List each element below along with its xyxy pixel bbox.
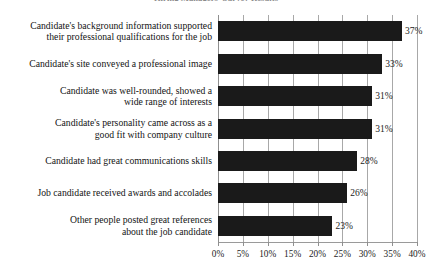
bar-value-label: 31% [372,124,392,134]
chart-title: Hiring Managers' Survey Results [0,0,432,1]
bar[interactable] [218,183,347,203]
plot-area: 37%33%31%31%28%26%23% [218,15,417,242]
category-label: Job candidate received awards and accola… [2,187,212,199]
bar-chart: Hiring Managers' Survey Results 37%33%31… [0,0,432,270]
bar[interactable] [218,119,372,139]
bar[interactable] [218,86,372,106]
x-axis-tick [268,242,269,246]
x-axis-tick [417,242,418,246]
x-axis-tick-label: 40% [397,249,432,259]
category-label: Candidate had great communications skill… [2,155,212,167]
bar-row: 33% [218,54,417,74]
bar-row: 23% [218,216,417,236]
bar-value-label: 37% [402,26,422,36]
bar[interactable] [218,151,357,171]
category-label: Candidate was well-rounded, showed a wid… [2,85,212,108]
bar[interactable] [218,21,402,41]
category-label: Candidate's site conveyed a professional… [2,58,212,70]
bar-value-label: 26% [347,188,367,198]
x-axis-tick [392,242,393,246]
bar-row: 37% [218,21,417,41]
x-axis-tick [367,242,368,246]
x-axis-tick [342,242,343,246]
bar-value-label: 28% [357,156,377,166]
bar-value-label: 31% [372,91,392,101]
bar-value-label: 23% [332,221,352,231]
bar-row: 28% [218,151,417,171]
x-axis-tick [293,242,294,246]
bar-row: 31% [218,119,417,139]
x-axis-tick [243,242,244,246]
x-axis-tick [218,242,219,246]
bar-value-label: 33% [382,59,402,69]
gridline [417,15,418,242]
category-label: Candidate's personality came across as a… [2,117,212,140]
bar-row: 31% [218,86,417,106]
bar[interactable] [218,54,382,74]
x-axis-tick [318,242,319,246]
bar[interactable] [218,216,332,236]
bar-row: 26% [218,183,417,203]
category-label: Other people posted great references abo… [2,214,212,237]
category-label: Candidate's background information suppo… [2,20,212,43]
